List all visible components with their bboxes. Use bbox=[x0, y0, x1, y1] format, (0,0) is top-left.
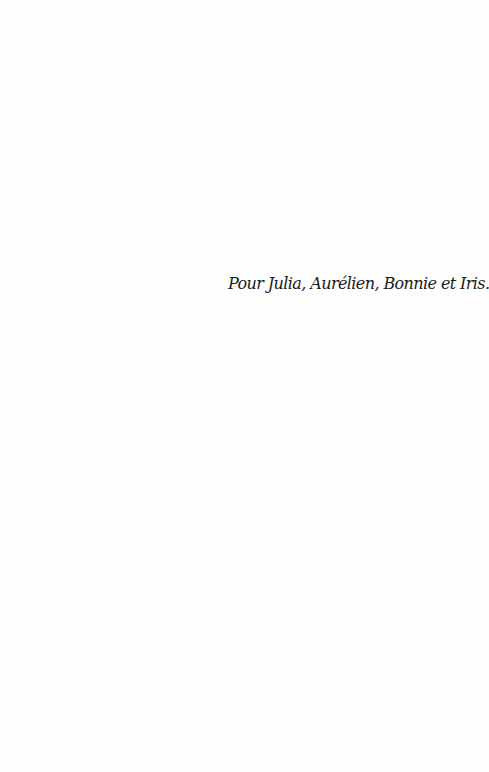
dedication-text: Pour Julia, Aurélien, Bonnie et Iris. bbox=[228, 274, 489, 294]
